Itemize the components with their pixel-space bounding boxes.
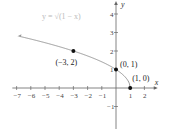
point-label: (0, 1) xyxy=(120,60,138,69)
x-tick-label: −4 xyxy=(56,92,64,100)
y-axis-label: y xyxy=(120,0,125,9)
function-graph: xy−7−6−5−4−3−2−112−11234y = √(1 − x) (−3… xyxy=(0,0,171,129)
x-tick-label: −3 xyxy=(70,92,78,100)
x-tick-label: 2 xyxy=(143,92,147,100)
data-point xyxy=(114,68,118,72)
data-point xyxy=(128,86,132,90)
y-tick-label: 2 xyxy=(110,48,114,56)
y-tick-label: −1 xyxy=(107,103,115,111)
x-tick-label: −5 xyxy=(42,92,50,100)
x-axis-label: x xyxy=(154,78,159,87)
data-point xyxy=(71,49,75,53)
point-label: (1, 0) xyxy=(132,74,150,83)
point-label: (−3, 2) xyxy=(55,58,77,67)
x-tick-label: 1 xyxy=(129,92,133,100)
y-tick-label: 4 xyxy=(110,11,114,19)
x-tick-label: −7 xyxy=(14,92,22,100)
x-tick-label: −1 xyxy=(99,92,107,100)
x-tick-label: −2 xyxy=(85,92,93,100)
y-tick-label: 3 xyxy=(110,29,114,37)
function-label: y = √(1 − x) xyxy=(42,12,81,21)
curve-arrow-icon xyxy=(17,34,21,36)
x-tick-label: −6 xyxy=(28,92,36,100)
y-axis-arrow-icon xyxy=(114,1,118,5)
